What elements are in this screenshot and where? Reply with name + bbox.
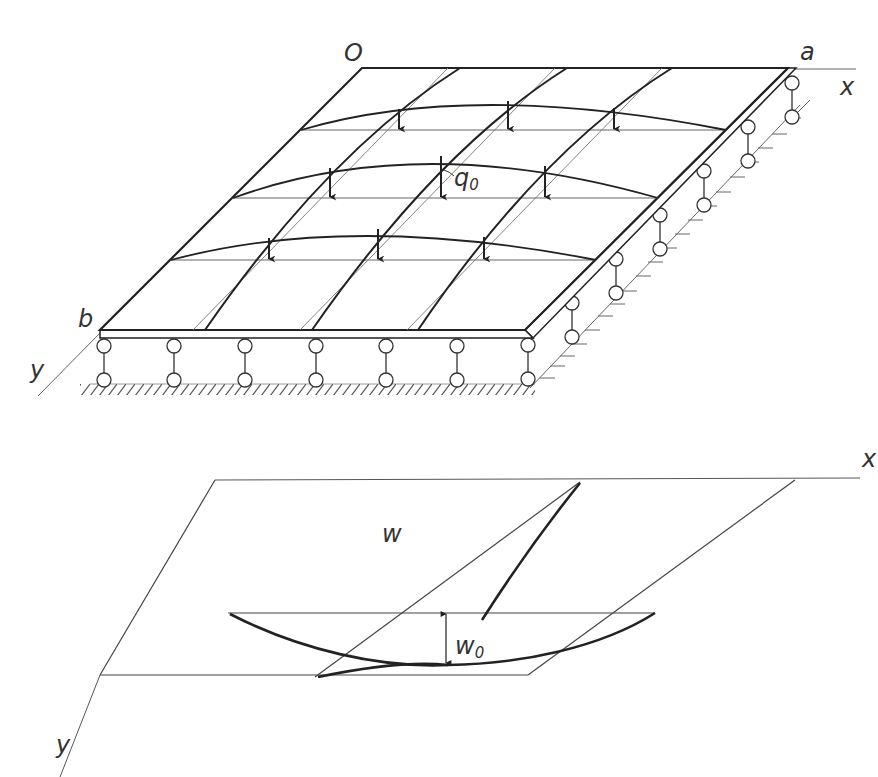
q0-sub: 0: [469, 176, 479, 194]
plate-diagram: [0, 0, 878, 777]
ground-hatch-right: [530, 100, 810, 388]
deflection-plane: [100, 480, 795, 677]
label-origin-O: O: [344, 41, 363, 65]
ground-hatch-front: [80, 384, 535, 395]
y-axis-line-bottom: [60, 675, 100, 777]
label-deflection-w: w: [382, 522, 402, 546]
w0-sub: 0: [475, 644, 485, 662]
grid-thin-horizontal: [171, 130, 726, 260]
supports-right-edge: [565, 76, 799, 344]
plate-top-face: [100, 68, 788, 330]
label-y-axis-top: y: [30, 358, 44, 382]
top-panel-plate: [38, 68, 856, 396]
label-y-axis-bottom: y: [56, 733, 70, 757]
bottom-panel-deflection: [60, 478, 860, 777]
label-corner-a: a: [800, 40, 815, 64]
label-x-axis-bottom: x: [862, 447, 876, 471]
q0-main: q: [454, 164, 469, 192]
label-x-axis-top: x: [840, 75, 854, 99]
label-max-deflection-w0: w0: [455, 634, 484, 661]
supports-front-edge: [97, 338, 535, 387]
label-corner-b: b: [78, 307, 93, 331]
label-load-q0: q0: [454, 166, 479, 193]
x-axis-line-bottom: [215, 478, 860, 480]
plate-edges: [100, 68, 796, 338]
w0-main: w: [455, 632, 475, 660]
load-arches: [171, 105, 726, 260]
